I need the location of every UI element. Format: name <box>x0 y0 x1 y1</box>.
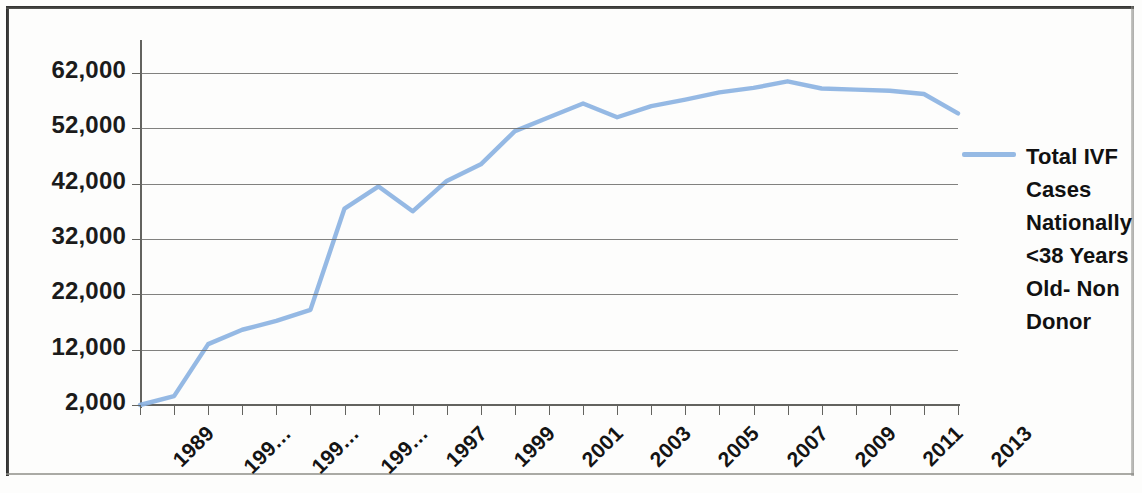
series-line-total-ivf-cases <box>140 81 958 405</box>
legend-label-line: Total IVF <box>1026 140 1140 173</box>
x-axis-tick <box>140 406 141 415</box>
y-axis-tick <box>132 350 141 351</box>
legend-label-line: Donor <box>1026 305 1140 338</box>
x-axis-tick-label: 2001 <box>577 421 628 472</box>
gridline <box>140 73 958 74</box>
x-axis-tick <box>515 406 516 415</box>
legend-label-line: Old- Non <box>1026 272 1140 305</box>
x-axis-tick <box>583 406 584 415</box>
x-axis-tick-label: 2003 <box>645 421 696 472</box>
gridline <box>140 184 958 185</box>
x-axis-tick-label: 199… <box>239 421 296 478</box>
x-axis-tick <box>481 406 482 415</box>
plot-area <box>140 73 958 405</box>
x-axis-tick <box>549 406 550 415</box>
x-axis-tick-label: 2007 <box>782 421 833 472</box>
legend-label-line: <38 Years <box>1026 239 1140 272</box>
x-axis-tick <box>924 406 925 415</box>
x-axis-tick-label: 1999 <box>509 421 560 472</box>
legend-label-line: Nationally <box>1026 206 1140 239</box>
x-axis-tick-label: 2005 <box>713 421 764 472</box>
y-axis-tick <box>132 128 141 129</box>
x-axis-tick <box>856 406 857 415</box>
x-axis-tick <box>958 406 959 415</box>
x-axis-tick <box>174 406 175 415</box>
x-axis-tick-label: 1989 <box>168 421 219 472</box>
x-axis-tick <box>617 406 618 415</box>
x-axis-tick <box>413 406 414 415</box>
x-axis-tick-label: 2011 <box>918 421 968 471</box>
x-axis-tick <box>822 406 823 415</box>
legend-label-line: Cases <box>1026 173 1140 206</box>
chart-legend: Total IVFCasesNationally<38 YearsOld- No… <box>962 140 1140 338</box>
x-axis-tick <box>208 406 209 415</box>
x-axis-tick <box>788 406 789 415</box>
y-axis-tick <box>132 239 141 240</box>
x-axis-tick <box>447 406 448 415</box>
gridline <box>140 128 958 129</box>
x-axis-tick <box>310 406 311 415</box>
gridline <box>140 239 958 240</box>
gridline <box>140 350 958 351</box>
x-axis-tick-label: 199… <box>307 421 364 478</box>
chart-figure: 2,00012,00022,00032,00042,00052,00062,00… <box>0 0 1142 493</box>
y-axis-tick <box>132 294 141 295</box>
y-axis-tick <box>132 73 141 74</box>
x-axis-tick <box>379 406 380 415</box>
legend-label-total-ivf-cases: Total IVFCasesNationally<38 YearsOld- No… <box>1026 140 1140 338</box>
legend-swatch-total-ivf-cases <box>962 152 1016 157</box>
x-axis-tick <box>651 406 652 415</box>
x-axis-tick <box>719 406 720 415</box>
x-axis-tick-label: 1997 <box>441 421 492 472</box>
x-axis-tick <box>890 406 891 415</box>
x-axis-tick <box>754 406 755 415</box>
x-axis-tick-label: 199… <box>375 421 432 478</box>
x-axis-tick <box>345 406 346 415</box>
x-axis-tick-label: 2009 <box>850 421 901 472</box>
y-axis-tick <box>132 184 141 185</box>
x-axis-tick <box>242 406 243 415</box>
x-axis-tick <box>276 406 277 415</box>
x-axis-tick-label: 2013 <box>986 421 1037 472</box>
x-axis-tick <box>685 406 686 415</box>
gridline <box>140 294 958 295</box>
